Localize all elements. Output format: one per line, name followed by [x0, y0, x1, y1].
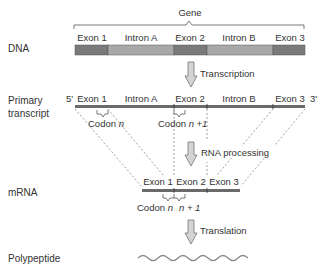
- transcription-step: Transcription: [185, 62, 255, 87]
- codon-n-brace: [97, 110, 108, 117]
- dna-row: DNA Exon 1 Intron A Exon 2 Intron B Exon…: [8, 32, 305, 55]
- dna-exon-3: [273, 45, 305, 55]
- mrna-codon-n-label: Codon n: [137, 202, 173, 213]
- pt-exon-3-label: Exon 3: [275, 93, 305, 104]
- mrna-codon-n1-brace: [174, 194, 185, 201]
- primary-transcript-row: Primary transcript 5' 3' Exon 1 Intron A…: [8, 93, 317, 129]
- mrna-row: mRNA Exon 1 Exon 2 Exon 3 Codon n n + 1: [8, 176, 241, 213]
- pt-codon-n1-label: Codon n +1: [158, 118, 207, 129]
- mrna-codon-n-brace: [163, 194, 174, 201]
- mrna-exon-2-label: Exon 2: [176, 176, 206, 187]
- gene-expression-diagram: Gene DNA Exon 1 Intron A Exon 2 Intron B…: [0, 0, 326, 268]
- translation-step: Translation: [185, 220, 247, 244]
- polypeptide-row: Polypeptide: [8, 253, 248, 264]
- down-arrow-icon: [185, 62, 197, 87]
- mrna-codon-n1-label: n + 1: [179, 202, 200, 213]
- dna-exon-3-label: Exon 3: [275, 32, 305, 43]
- dna-exon-1-label: Exon 1: [77, 32, 107, 43]
- pt-exon-2-label: Exon 2: [175, 93, 205, 104]
- pt-intron-b-label: Intron B: [222, 93, 255, 104]
- primary-transcript-strand: [75, 105, 305, 108]
- transcription-label: Transcription: [200, 68, 255, 79]
- polypeptide-label: Polypeptide: [8, 253, 61, 264]
- dna-intron-b: [207, 45, 273, 55]
- mrna-exon-3-label: Exon 3: [209, 176, 239, 187]
- dna-exon-2: [174, 45, 207, 55]
- dna-label: DNA: [8, 43, 29, 54]
- mrna-strand: [142, 189, 240, 192]
- three-prime-label: 3': [310, 93, 317, 104]
- mrna-exon-1-label: Exon 1: [143, 176, 173, 187]
- dna-intron-a: [108, 45, 174, 55]
- rna-processing-label: RNA processing: [201, 147, 269, 158]
- gene-title: Gene: [178, 7, 201, 18]
- dna-exon-1: [75, 45, 108, 55]
- down-arrow-icon: [185, 220, 197, 244]
- translation-label: Translation: [200, 225, 247, 236]
- five-prime-label: 5': [66, 93, 73, 104]
- primary-label-line1: Primary: [8, 95, 42, 106]
- pt-exon-1-label: Exon 1: [77, 93, 107, 104]
- dna-exon-2-label: Exon 2: [175, 32, 205, 43]
- gene-bracket: Gene: [74, 7, 304, 29]
- dna-intron-b-label: Intron B: [222, 32, 255, 43]
- dna-intron-a-label: Intron A: [125, 32, 158, 43]
- primary-label-line2: transcript: [8, 108, 49, 119]
- pt-codon-n-label: Codon n: [88, 118, 124, 129]
- polypeptide-chain: [138, 256, 248, 261]
- codon-n1-brace: [174, 110, 185, 117]
- mrna-label: mRNA: [8, 187, 38, 198]
- pt-intron-a-label: Intron A: [125, 93, 158, 104]
